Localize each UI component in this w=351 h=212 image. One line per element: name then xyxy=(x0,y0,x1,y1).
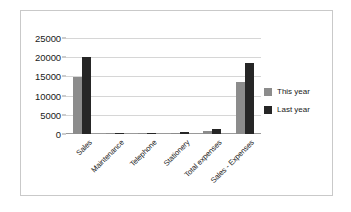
y-axis-tick-label: 15000 xyxy=(35,71,61,82)
bar-group xyxy=(99,38,132,134)
legend-item-last-year: Last year xyxy=(264,105,310,114)
bar xyxy=(82,57,91,134)
bar-group xyxy=(164,38,197,134)
bar-group xyxy=(66,38,99,134)
bar-group xyxy=(229,38,262,134)
legend-label-this-year: This year xyxy=(277,87,310,96)
legend-item-this-year: This year xyxy=(264,87,310,96)
legend-swatch-last-year xyxy=(264,106,272,114)
x-axis-category-labels: SalesMaintenanceTelephoneStationeryTotal… xyxy=(66,134,261,194)
bar-group xyxy=(196,38,229,134)
bar-groups xyxy=(66,38,261,134)
plot-area: 0500010000150002000025000 xyxy=(66,38,261,134)
y-axis-tick-label: 0 xyxy=(56,129,61,140)
bar xyxy=(73,77,82,134)
legend-swatch-this-year xyxy=(264,88,272,96)
bar-group xyxy=(131,38,164,134)
bar xyxy=(245,63,254,134)
x-axis-tick-label: Sales xyxy=(74,138,93,157)
chart-container: 0500010000150002000025000 SalesMaintenan… xyxy=(20,10,333,196)
legend-label-last-year: Last year xyxy=(277,105,310,114)
bar xyxy=(236,82,245,134)
chart-legend: This year Last year xyxy=(264,87,310,123)
x-axis-tick-label: Stationery xyxy=(161,138,191,168)
y-axis-tick-label: 20000 xyxy=(35,52,61,63)
x-axis-tick-label: Maintenance xyxy=(90,138,126,174)
y-axis-tick-label: 25000 xyxy=(35,33,61,44)
x-axis-tick-label: Telephone xyxy=(128,138,159,169)
y-axis-tick-label: 10000 xyxy=(35,90,61,101)
y-axis-tick-label: 5000 xyxy=(40,109,61,120)
